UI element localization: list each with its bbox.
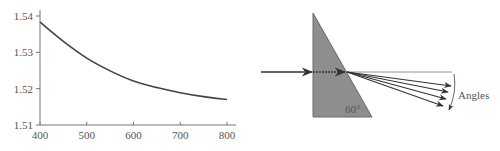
y-tick-label: 1.54 xyxy=(14,10,34,22)
prism-diagram: 60° Angles xyxy=(261,13,489,117)
dispersed-ray xyxy=(347,72,446,99)
y-ticks: 1.511.521.531.54 xyxy=(14,10,40,131)
prism-angle-label: 60° xyxy=(345,103,360,115)
y-tick-label: 1.51 xyxy=(14,119,33,131)
angles-label: Angles xyxy=(458,89,489,101)
x-tick-label: 500 xyxy=(79,129,96,141)
dispersed-ray xyxy=(347,72,451,86)
x-tick-label: 800 xyxy=(219,129,236,141)
y-tick-label: 1.53 xyxy=(14,46,34,58)
refractive-index-chart: 1.511.521.531.54 400500600700800 xyxy=(14,10,236,141)
x-tick-label: 400 xyxy=(32,129,49,141)
figure: 1.511.521.531.54 400500600700800 60° Ang… xyxy=(0,0,500,151)
angles-arc-arrow xyxy=(449,74,455,110)
data-line xyxy=(40,22,227,99)
dispersed-ray xyxy=(347,72,448,92)
y-tick-label: 1.52 xyxy=(14,83,33,95)
x-tick-label: 700 xyxy=(172,129,189,141)
x-tick-label: 600 xyxy=(125,129,142,141)
prism xyxy=(313,13,372,117)
